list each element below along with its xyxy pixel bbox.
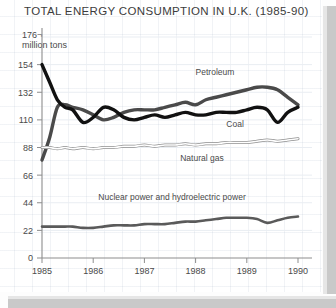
x-tick-label: 1988	[186, 266, 206, 276]
series-line	[42, 65, 298, 123]
x-tick-label: 1989	[237, 266, 257, 276]
y-tick-label: 66	[23, 171, 33, 181]
chart-series-annotations: PetroleumCoalNatural gasNuclear power an…	[98, 67, 246, 203]
y-tick-label: 110	[19, 115, 33, 125]
chart-series-group	[42, 65, 298, 228]
series-annotation-label: Coal	[226, 119, 244, 129]
x-tick-label: 1987	[134, 266, 154, 276]
x-axis-tick-labels: 198519861987198819891990	[32, 258, 308, 276]
card-shadow-right	[323, 6, 336, 294]
series-line	[42, 217, 298, 228]
series-annotation-label: Petroleum	[196, 67, 235, 77]
y-tick-label: 44	[23, 198, 33, 208]
chart-card: TOTAL ENERGY CONSUMPTION IN U.K. (1985-9…	[0, 0, 322, 292]
series-annotation-label: Natural gas	[180, 153, 223, 163]
line-chart-plot: 022446688110132154 198519861987198819891…	[0, 0, 322, 292]
x-tick-label: 1985	[32, 266, 52, 276]
card-shadow-bottom	[8, 296, 336, 308]
y-tick-label: 0	[28, 253, 33, 263]
series-annotation-label: Nuclear power and hydroelectric power	[98, 192, 246, 202]
y-tick-label: 88	[23, 143, 33, 153]
x-tick-label: 1986	[83, 266, 103, 276]
y-tick-label: 132	[18, 88, 33, 98]
y-tick-label: 22	[23, 226, 33, 236]
y-axis-tick-labels: 022446688110132154	[18, 60, 42, 263]
y-tick-label: 154	[18, 60, 33, 70]
x-tick-label: 1990	[288, 266, 308, 276]
chart-card-page: TOTAL ENERGY CONSUMPTION IN U.K. (1985-9…	[0, 0, 336, 308]
